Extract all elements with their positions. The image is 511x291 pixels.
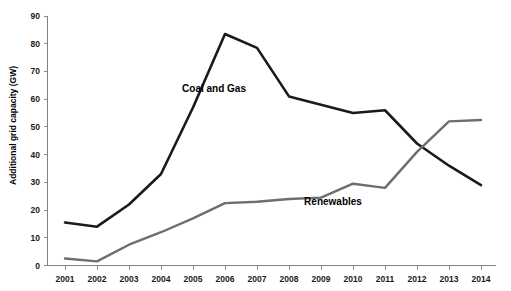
series-annotation-renewables: Renewables (304, 196, 362, 207)
y-tick-label: 90 (31, 11, 41, 21)
x-tick-label: 2010 (344, 274, 363, 284)
x-tick-label: 2002 (88, 274, 107, 284)
x-tick-label: 2006 (216, 274, 235, 284)
x-tick-label: 2007 (248, 274, 267, 284)
x-tick-label: 2012 (408, 274, 427, 284)
y-axis-title: Additional grid capacity (GW) (8, 66, 18, 185)
x-tick-label: 2004 (152, 274, 171, 284)
x-tick-label: 2014 (472, 274, 491, 284)
y-tick-label: 40 (31, 150, 41, 160)
x-tick-label: 2005 (184, 274, 203, 284)
x-tick-label: 2001 (56, 274, 75, 284)
y-tick-label: 30 (31, 177, 41, 187)
x-tick-label: 2008 (280, 274, 299, 284)
chart-canvas: 0102030405060708090 20012002200320042005… (0, 0, 511, 291)
y-tick-label: 0 (35, 261, 40, 271)
y-tick-label: 10 (31, 233, 41, 243)
x-tick-label: 2013 (440, 274, 459, 284)
series-annotation-coal-and-gas: Coal and Gas (182, 83, 246, 94)
y-tick-label: 60 (31, 94, 41, 104)
chart-background (0, 0, 511, 291)
x-tick-label: 2011 (376, 274, 395, 284)
x-tick-label: 2009 (312, 274, 331, 284)
y-tick-label: 20 (31, 205, 41, 215)
y-tick-label: 50 (31, 122, 41, 132)
y-tick-label: 70 (31, 66, 41, 76)
x-tick-label: 2003 (120, 274, 139, 284)
line-chart: 0102030405060708090 20012002200320042005… (0, 0, 511, 291)
y-tick-label: 80 (31, 39, 41, 49)
